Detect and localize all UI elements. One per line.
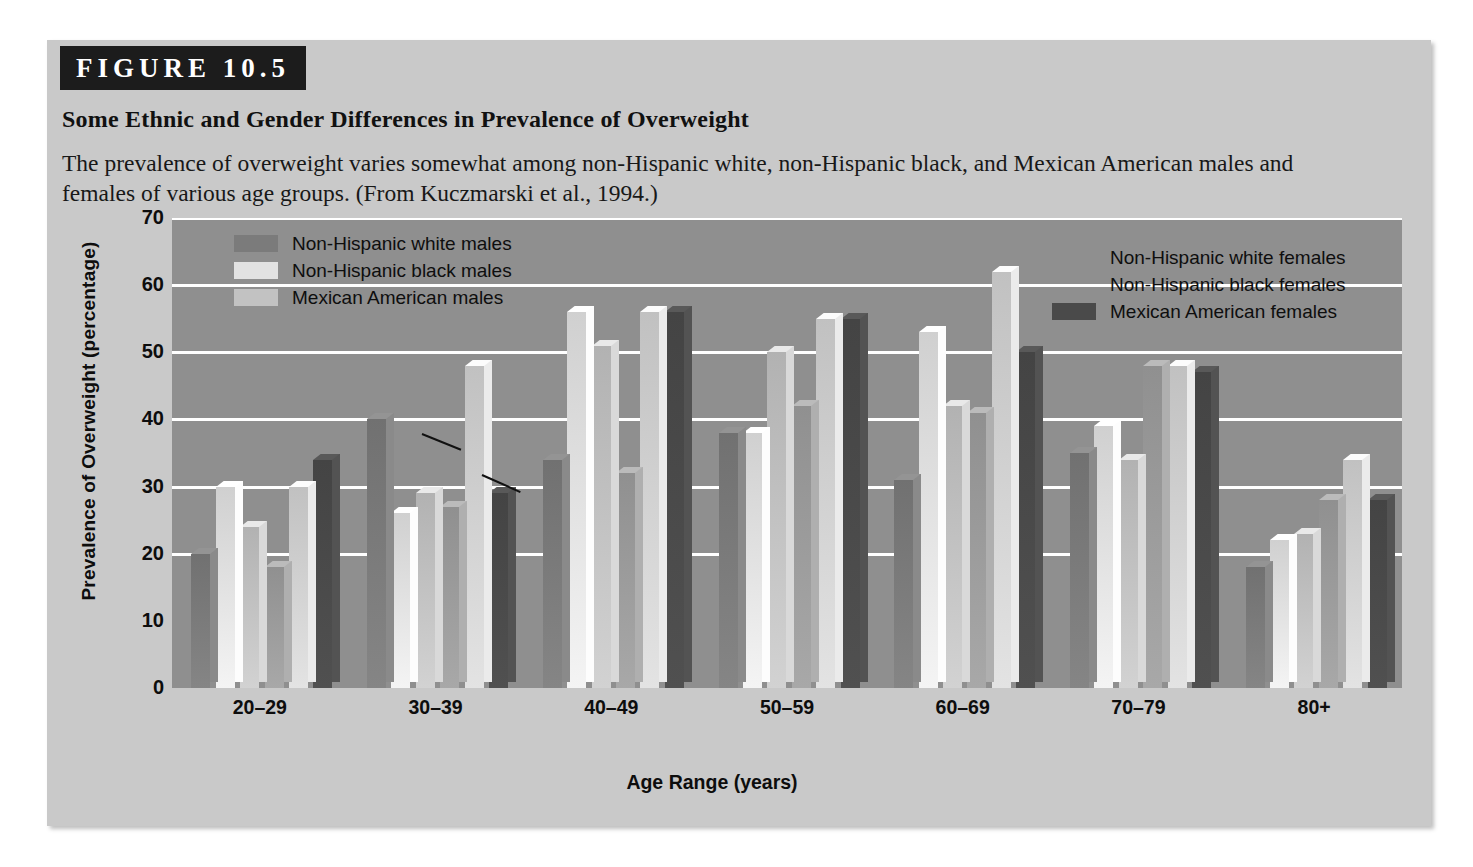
bar-face: [665, 312, 684, 688]
x-tick-label: 60–69: [936, 696, 990, 719]
bar-face: [567, 312, 586, 688]
bar-side: [611, 340, 619, 682]
plot-area: Non-Hispanic white malesNon-Hispanic bla…: [172, 218, 1402, 688]
legend-right: Non-Hispanic white femalesNon-Hispanic b…: [1052, 244, 1346, 325]
bar-side: [332, 454, 340, 682]
bar-side: [1089, 447, 1097, 682]
x-tick-label: 50–59: [760, 696, 814, 719]
bar-face: [265, 567, 284, 688]
legend-item: Non-Hispanic black males: [234, 257, 512, 284]
figure-panel: FIGURE 10.5 Some Ethnic and Gender Diffe…: [47, 40, 1431, 826]
bar-face: [1192, 372, 1211, 688]
bar-face: [1319, 500, 1338, 688]
legend-swatch: [234, 262, 278, 279]
bar: [1294, 534, 1313, 688]
figure-label-bar: FIGURE 10.5: [60, 46, 306, 90]
bar: [894, 480, 913, 688]
legend-item: Non-Hispanic white males: [234, 230, 512, 257]
y-tick-label: 30: [120, 475, 164, 498]
bar-side: [459, 501, 467, 682]
bar-side: [835, 313, 843, 682]
legend-swatch: [1052, 249, 1096, 266]
bar: [665, 312, 684, 688]
bar: [391, 513, 410, 688]
bar: [489, 493, 508, 688]
bar-face: [489, 493, 508, 688]
bar-face: [592, 346, 611, 688]
bar-side: [235, 481, 243, 682]
bar-face: [1143, 366, 1162, 688]
legend-item: Non-Hispanic black females: [1052, 271, 1346, 298]
y-tick-label: 70: [120, 206, 164, 229]
bar-side: [635, 467, 643, 682]
y-tick-label: 50: [120, 340, 164, 363]
bar-side: [811, 400, 819, 682]
legend-left: Non-Hispanic white malesNon-Hispanic bla…: [234, 230, 512, 311]
bar-face: [943, 406, 962, 688]
bar: [1192, 372, 1211, 688]
bar-side: [1162, 360, 1170, 682]
bar-face: [1094, 426, 1113, 688]
bar: [816, 319, 835, 688]
legend-label: Mexican American females: [1110, 298, 1337, 325]
bar: [1343, 460, 1362, 688]
bar-face: [191, 554, 210, 688]
bar-side: [762, 427, 770, 682]
x-tick-label: 80+: [1298, 696, 1331, 719]
bar: [1016, 352, 1035, 688]
bar-side: [1187, 360, 1195, 682]
y-tick-label: 10: [120, 609, 164, 632]
bar: [919, 332, 938, 688]
bar-side: [684, 306, 692, 682]
bar-face: [967, 413, 986, 688]
bar-face: [919, 332, 938, 688]
bar: [216, 487, 235, 688]
bar: [1368, 500, 1387, 688]
bar-face: [1168, 366, 1187, 688]
figure-label-text: FIGURE 10.5: [60, 46, 306, 90]
legend-swatch: [1052, 303, 1096, 320]
bar: [1270, 540, 1289, 688]
bar-side: [659, 306, 667, 682]
bar: [465, 366, 484, 688]
figure-title: Some Ethnic and Gender Differences in Pr…: [62, 106, 1402, 133]
bar-face: [216, 487, 235, 688]
bar-side: [210, 548, 218, 682]
bar: [719, 433, 738, 688]
bar-face: [416, 493, 435, 688]
legend-swatch: [1052, 276, 1096, 293]
x-tick-label: 30–39: [408, 696, 462, 719]
bar-side: [860, 313, 868, 682]
bar-side: [386, 413, 394, 682]
bar-face: [391, 513, 410, 688]
bar: [1143, 366, 1162, 688]
bar-face: [1368, 500, 1387, 688]
bar: [416, 493, 435, 688]
bar: [1246, 567, 1265, 688]
bar-side: [1113, 420, 1121, 682]
legend-label: Mexican American males: [292, 284, 503, 311]
x-tick-label: 70–79: [1111, 696, 1165, 719]
bar: [1094, 426, 1113, 688]
legend-label: Non-Hispanic black females: [1110, 271, 1346, 298]
bar-face: [767, 352, 786, 688]
legend-label: Non-Hispanic white females: [1110, 244, 1346, 271]
legend-swatch: [234, 235, 278, 252]
bar-side: [1035, 346, 1043, 682]
y-tick-label: 20: [120, 542, 164, 565]
bar-side: [284, 561, 292, 682]
chart-area: Prevalence of Overweight (percentage) 01…: [62, 218, 1417, 808]
bar-side: [913, 474, 921, 682]
bar: [265, 567, 284, 688]
figure-caption: The prevalence of overweight varies some…: [62, 148, 1352, 208]
bar-side: [1338, 494, 1346, 682]
bar-face: [289, 487, 308, 688]
legend-item: Non-Hispanic white females: [1052, 244, 1346, 271]
bar: [616, 473, 635, 688]
legend-swatch: [234, 289, 278, 306]
bar: [792, 406, 811, 688]
bar: [967, 413, 986, 688]
bar-side: [786, 346, 794, 682]
bar-side: [586, 306, 594, 682]
bar-side: [1265, 561, 1273, 682]
